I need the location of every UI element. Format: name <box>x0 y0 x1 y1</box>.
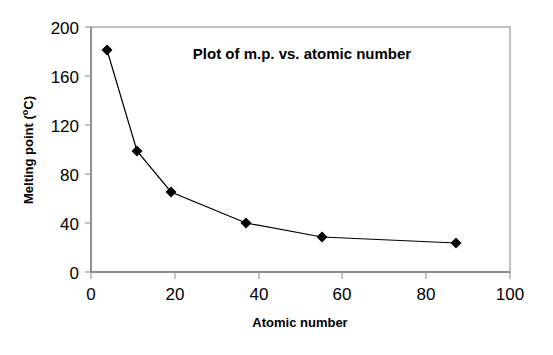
x-tick-label-20: 20 <box>166 285 185 304</box>
x-tick-label-0: 0 <box>86 285 95 304</box>
y-tick-label-160: 160 <box>51 68 79 87</box>
chart-title: Plot of m.p. vs. atomic number <box>193 45 412 62</box>
plot-area-frame <box>91 27 510 272</box>
x-tick-label-40: 40 <box>250 285 269 304</box>
y-axis-title-main: Melting point ( <box>21 115 36 204</box>
chart-container: 0 40 80 120 160 200 0 20 40 60 80 100 <box>0 0 553 355</box>
x-tick-label-60: 60 <box>333 285 352 304</box>
x-axis-title: Atomic number <box>252 315 347 330</box>
y-tick-label-80: 80 <box>60 166 79 185</box>
x-tick-label-80: 80 <box>417 285 436 304</box>
y-tick-label-120: 120 <box>51 117 79 136</box>
y-tick-label-0: 0 <box>70 264 79 283</box>
y-tick-label-200: 200 <box>51 19 79 38</box>
x-tick-label-100: 100 <box>496 285 524 304</box>
melting-point-scatter-line-chart: 0 40 80 120 160 200 0 20 40 60 80 100 <box>0 0 553 355</box>
y-tick-label-40: 40 <box>60 215 79 234</box>
y-axis-title-unit: C) <box>21 96 36 110</box>
